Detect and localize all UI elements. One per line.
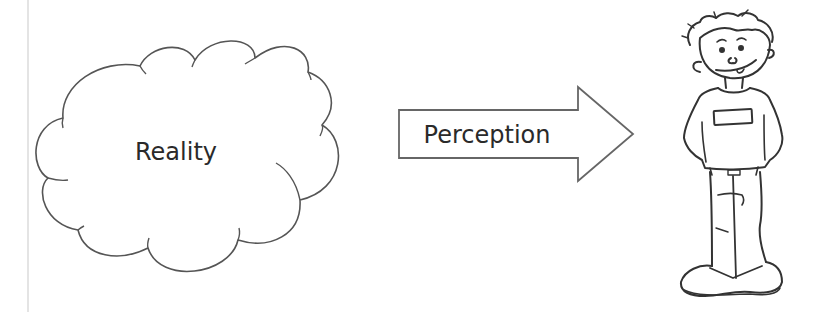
perception-arrow: Perception <box>399 87 633 181</box>
name-tag <box>714 109 753 125</box>
collar <box>718 88 750 93</box>
shoes <box>681 262 782 296</box>
reality-cloud: Reality <box>36 41 339 271</box>
arrow-label: Perception <box>424 121 551 149</box>
left-ear <box>693 62 701 72</box>
cloud-label: Reality <box>135 138 217 166</box>
left-eye <box>720 48 724 52</box>
boy-figure <box>681 10 782 296</box>
right-eye <box>739 46 743 50</box>
shirt <box>684 88 782 169</box>
pants <box>710 172 766 266</box>
